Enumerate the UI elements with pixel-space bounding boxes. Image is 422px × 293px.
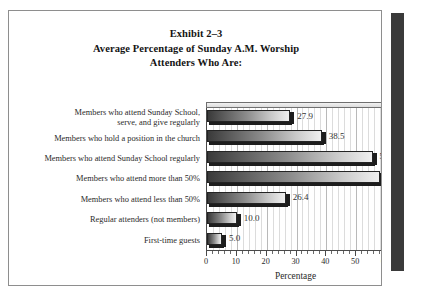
bar-row[interactable]: 26.4: [207, 190, 382, 210]
x-axis-tick-minor: [361, 251, 362, 254]
bar-value-label: 38.5: [329, 131, 345, 141]
bar-end-face: [237, 214, 241, 226]
bar-value-label: 27.9: [297, 111, 313, 121]
category-label: Regular attenders (not members): [14, 215, 200, 225]
x-axis-tick-minor: [290, 251, 291, 254]
chart-title-line-1: Exhibit 2–3: [9, 27, 382, 42]
x-axis-tick-major: [206, 251, 207, 256]
bar-bottom-face: [209, 122, 292, 125]
x-axis: Percentage 0102030405060: [206, 251, 382, 286]
bar-value-label: 55.5: [380, 151, 382, 161]
plot-frame: 27.938.555.558.026.410.05.0: [206, 102, 382, 251]
x-axis-tick-label: 30: [291, 257, 299, 266]
bar-bottom-face: [209, 183, 382, 186]
bar-row[interactable]: 10.0: [207, 210, 382, 230]
x-axis-tick-minor: [331, 251, 332, 254]
x-axis-tick-minor: [248, 251, 249, 254]
category-label: Members who attend Sunday School, serve,…: [14, 108, 200, 128]
x-axis-tick-label: 50: [351, 257, 359, 266]
x-axis-tick-major: [355, 251, 356, 256]
bar-row[interactable]: 58.0: [207, 169, 382, 189]
x-axis-tick-minor: [343, 251, 344, 254]
page-shadow: [391, 13, 404, 271]
bar-bottom-face: [209, 204, 288, 207]
bar-bottom-face: [209, 163, 375, 166]
category-label: Members who attend Sunday School regular…: [14, 154, 200, 164]
x-axis-tick-minor: [367, 251, 368, 254]
x-axis-tick-label: 10: [232, 257, 240, 266]
bar-end-face: [290, 112, 294, 124]
x-axis-tick-minor: [212, 251, 213, 254]
bar[interactable]: [207, 192, 286, 204]
x-axis-tick-major: [296, 251, 297, 256]
bar-row[interactable]: 27.9: [207, 108, 382, 128]
plot-area: 27.938.555.558.026.410.05.0: [206, 108, 382, 251]
x-axis-tick-minor: [313, 251, 314, 254]
x-axis-tick-major: [325, 251, 326, 256]
chart-title-line-3: Attenders Who Are:: [9, 56, 382, 71]
bar-row[interactable]: 55.5: [207, 149, 382, 169]
bar-end-face: [222, 235, 226, 247]
x-axis-tick-minor: [218, 251, 219, 254]
x-axis-tick-minor: [307, 251, 308, 254]
bar[interactable]: [207, 212, 237, 224]
category-label: Members who attend less than 50%: [14, 195, 200, 205]
bar-value-label: 5.0: [229, 233, 240, 243]
bar[interactable]: [207, 151, 373, 163]
x-axis-tick-label: 40: [321, 257, 329, 266]
x-axis-tick-minor: [254, 251, 255, 254]
x-axis-tick-minor: [260, 251, 261, 254]
x-axis-tick-minor: [349, 251, 350, 254]
bar-end-face: [286, 194, 290, 206]
x-axis-tick-minor: [242, 251, 243, 254]
bar-value-label: 26.4: [293, 192, 309, 202]
bar[interactable]: [207, 130, 322, 142]
x-axis-tick-minor: [224, 251, 225, 254]
bar[interactable]: [207, 233, 222, 245]
bar-row[interactable]: 38.5: [207, 128, 382, 148]
bar-end-face: [373, 153, 377, 165]
x-axis-tick-label: 0: [204, 257, 208, 266]
x-axis-tick-label: 60: [381, 257, 382, 266]
bar-end-face: [380, 173, 382, 185]
x-axis-tick-minor: [284, 251, 285, 254]
figure-page: Exhibit 2–3 Average Percentage of Sunday…: [8, 10, 382, 286]
bar-bottom-face: [209, 224, 239, 227]
bar-row[interactable]: 5.0: [207, 231, 382, 251]
bar-bottom-face: [209, 142, 324, 145]
category-axis-labels: Members who attend Sunday School, serve,…: [14, 108, 200, 251]
bar[interactable]: [207, 110, 290, 122]
x-axis-tick-minor: [278, 251, 279, 254]
x-axis-tick-minor: [230, 251, 231, 254]
x-axis-title: Percentage: [206, 271, 382, 281]
chart-title: Exhibit 2–3 Average Percentage of Sunday…: [9, 27, 382, 71]
x-axis-tick-major: [236, 251, 237, 256]
x-axis-tick-minor: [337, 251, 338, 254]
category-label: Members who hold a position in the churc…: [14, 134, 200, 144]
x-axis-tick-minor: [301, 251, 302, 254]
bar[interactable]: [207, 171, 380, 183]
bar-end-face: [322, 132, 326, 144]
x-axis-tick-label: 20: [262, 257, 270, 266]
chart-title-line-2: Average Percentage of Sunday A.M. Worshi…: [9, 42, 382, 57]
bar-value-label: 10.0: [244, 213, 260, 223]
x-axis-tick-minor: [272, 251, 273, 254]
category-label: First-time guests: [14, 236, 200, 246]
x-axis-tick-major: [266, 251, 267, 256]
x-axis-tick-minor: [319, 251, 320, 254]
x-axis-tick-minor: [379, 251, 380, 254]
x-axis-tick-minor: [373, 251, 374, 254]
category-label: Members who attend more than 50%: [14, 174, 200, 184]
